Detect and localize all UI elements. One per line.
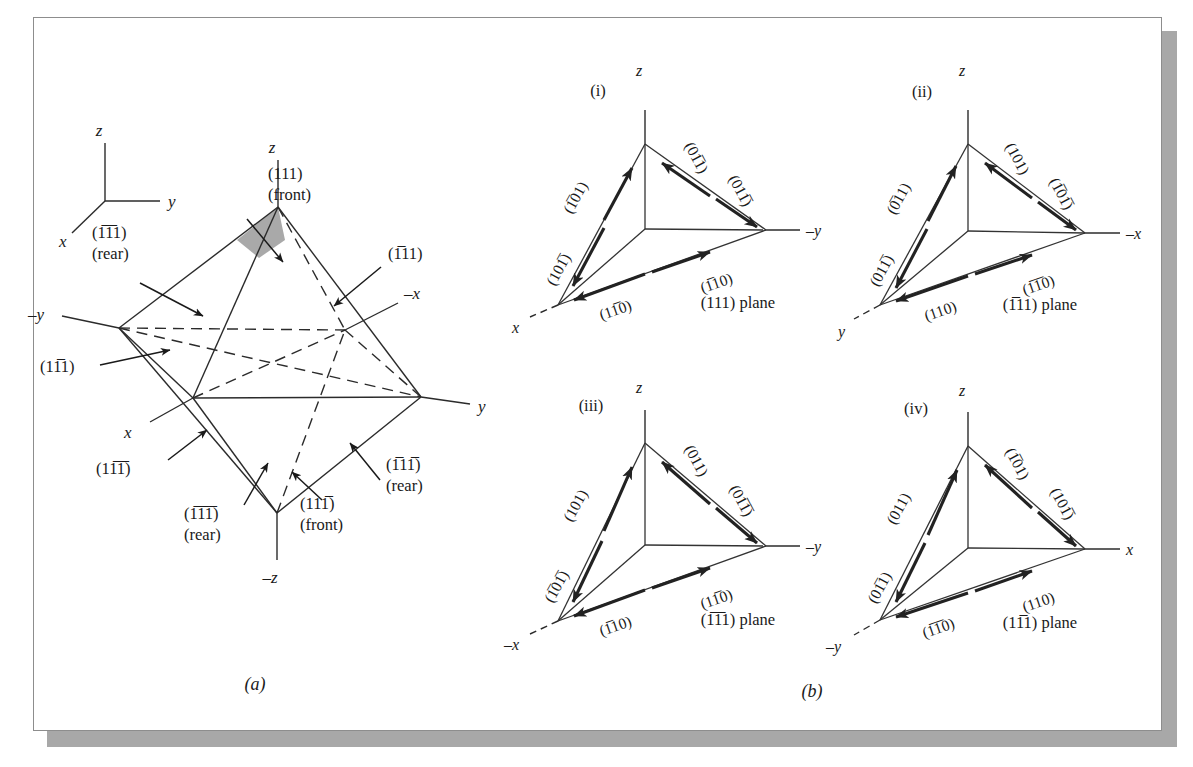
tet-ii-roman: (ii) [912, 82, 932, 101]
tet-i-axis-right-label: –y [805, 222, 822, 240]
tet-iv-label-ur-lower: (101̅) [1047, 485, 1079, 523]
panel-b-tetrahedra: (i) z –y x (1̅01) (101̅) (01̅1) (011̅) [503, 62, 1141, 702]
svg-text:(101): (101) [1002, 140, 1034, 178]
oct-label-x: x [123, 423, 132, 442]
tet-iii-plane-caption: (1̅1̅1) plane [701, 610, 775, 629]
oct-label-y: y [476, 397, 486, 416]
tet-i-edge-center-right [645, 229, 766, 230]
tet-iv-label-ur-upper: (1̅01) [1002, 445, 1034, 483]
tet-iv-axis-left [854, 620, 880, 635]
label-b11b1-rear-plane: (1̅11̅) [386, 455, 421, 474]
tet-ii-axis-left [854, 305, 880, 319]
tet-iii-label-bot-left: (1̅10) [597, 612, 634, 640]
label-b1b1b1-rear-note: (rear) [184, 525, 221, 544]
tet-i-arrow-ul-lower [573, 228, 604, 286]
tet-iii-label-ur-upper: (011) [681, 442, 712, 480]
tet-i-roman: (i) [590, 81, 606, 100]
tet-ii-label-bot-left: (110) [922, 297, 959, 325]
tet-i-plane-caption: (111) plane [701, 293, 775, 312]
caption-b: (b) [802, 681, 823, 702]
tet-iii-arrow-ul-lower [573, 541, 602, 602]
label-b1b11-rear-plane: (1̅1̅1) [92, 223, 127, 242]
oct-label-neg-z: –z [261, 568, 278, 587]
svg-text:(1̅1̅1): (1̅1̅1) [92, 223, 127, 242]
figure-canvas: z y x [0, 0, 1193, 767]
diag-x-negx [193, 330, 345, 398]
label-b11b1-rear: (1̅11̅) (rear) [386, 455, 423, 495]
tet-iv-label-ul-upper: (011) [883, 490, 915, 528]
svg-text:(011): (011) [681, 442, 712, 480]
svg-text:(011̅): (011̅) [866, 252, 898, 290]
tet-iv: (iv) z x –y (011) (01̅1) (1̅01) (101̅) [825, 382, 1133, 656]
oct-axis-x [150, 398, 193, 422]
tet-iii-arrow-ul-upper [604, 467, 632, 531]
oct-label-neg-y: –y [27, 305, 45, 324]
tet-i-edges [558, 144, 766, 305]
tet-iii-roman: (iii) [579, 396, 604, 415]
label-b111-plane: (1̅11) [388, 244, 423, 263]
edge-negz-x [193, 398, 277, 513]
svg-text:(11̅1): (11̅1) [40, 357, 75, 376]
svg-text:(01̅1): (01̅1) [681, 139, 712, 177]
svg-text:(11̅0): (11̅0) [698, 585, 735, 613]
tet-iii: (iii) z –y –x (101) (1̅01̅) (011) (01̅1̅… [503, 379, 822, 653]
label-111-front-plane: (111) [268, 164, 303, 183]
tet-iii-axis-right-label: –y [805, 538, 822, 556]
tet-i-axis-left-label: x [511, 319, 519, 336]
tet-ii-axis-left-label: y [836, 323, 846, 341]
tet-ii-label-ur-upper: (101) [1002, 140, 1034, 178]
label-b11b1-rear-note: (rear) [386, 476, 423, 495]
triad-x-label: x [58, 232, 67, 251]
label-b111: (1̅11) [388, 244, 423, 263]
tet-iv-plane-caption: (11̅1) plane [1003, 613, 1077, 632]
tet-ii-axis-right-label: –x [1125, 225, 1141, 242]
octahedron-hidden-edges [119, 207, 421, 513]
tet-iii-axis-z-label: z [635, 379, 643, 396]
label-b1b11-rear: (1̅1̅1) (rear) [92, 223, 129, 263]
label-b1b1b1-rear: (1̅1̅1̅) (rear) [184, 504, 221, 544]
svg-text:(101): (101) [560, 487, 592, 525]
label-b1b11-rear-note: (rear) [92, 244, 129, 263]
tet-i-axis-left [530, 305, 558, 317]
edge-negy-x [119, 328, 193, 398]
tet-iv-edge-center-right [968, 548, 1085, 549]
tet-iii-label-bot-right: (11̅0) [698, 585, 735, 613]
edge-x-y [193, 397, 421, 398]
tet-i-axis-z-label: z [635, 62, 643, 79]
svg-text:(1̅1̅1̅): (1̅1̅1̅) [184, 504, 219, 523]
tet-iii-edges [558, 443, 766, 621]
leader-1b11 [100, 350, 170, 365]
tet-i-arrow-bot-left [574, 274, 645, 300]
tet-i-label-ur-upper: (01̅1) [681, 139, 712, 177]
tet-ii-edge-center-left [880, 231, 968, 305]
svg-text:(111̅): (111̅) [300, 494, 335, 513]
diag-negy-y [119, 328, 421, 397]
svg-text:(1̅11) plane: (1̅11) plane [1003, 295, 1077, 314]
edge-z-y [278, 207, 421, 397]
label-11b1-front-plane: (111̅) [300, 494, 335, 513]
oct-label-z: z [268, 138, 276, 157]
tet-iv-edges [880, 446, 1085, 620]
panel-a-octahedron: z y x [27, 121, 486, 695]
edge-z-x [193, 207, 278, 398]
tet-ii-arrow-bot-left [896, 276, 968, 301]
svg-text:(1̅1̅0): (1̅1̅0) [920, 614, 957, 642]
svg-text:(11̅1̅): (11̅1̅) [96, 459, 131, 478]
tet-iv-axis-z-label: z [958, 382, 966, 399]
edge-z-negx [278, 207, 345, 330]
tet-iii-axis-left-label: –x [503, 636, 519, 653]
svg-text:(1̅01): (1̅01) [560, 179, 592, 217]
label-11b1-front-note: (front) [300, 515, 343, 534]
svg-text:(0̅11): (0̅11) [883, 180, 915, 218]
tet-iv-arrow-bot-right [975, 571, 1032, 591]
edge-z-negy [119, 207, 278, 328]
tet-iv-axis-left-label: –y [825, 638, 842, 656]
svg-text:(1̅10): (1̅10) [597, 612, 634, 640]
tet-ii-plane-caption: (1̅11) plane [1003, 295, 1077, 314]
tet-i-arrow-ul-upper [604, 168, 632, 220]
triad-y-label: y [166, 192, 176, 211]
label-1b1b1: (11̅1̅) [96, 459, 131, 478]
svg-text:(01̅1): (01̅1) [864, 569, 896, 607]
tet-iv-arrow-ul-lower [896, 543, 925, 602]
figure-root: z y x [0, 0, 1193, 767]
